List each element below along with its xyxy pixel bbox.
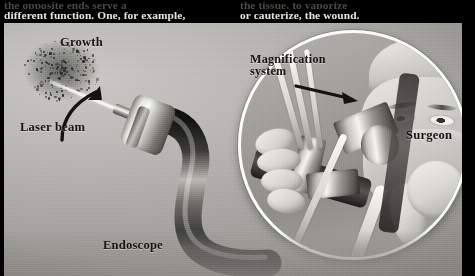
text-line-right: or cauterize, the wound. (240, 9, 360, 21)
clipped-text-line-right: the tissue, to vaporize (240, 0, 360, 9)
control-knob (306, 168, 360, 199)
finger-3 (261, 169, 303, 193)
right-hand-palm (399, 153, 462, 226)
eyebrow-right (427, 103, 457, 111)
optics-lens-housing (356, 120, 405, 170)
text-line-left: different function. One, for example, (4, 9, 185, 21)
label-surgeon: Surgeon (406, 128, 452, 143)
surgical-cap (369, 39, 462, 91)
label-endoscope: Endoscope (103, 238, 163, 253)
finger-1 (252, 125, 297, 160)
left-gutter (0, 23, 4, 276)
right-gutter (462, 0, 475, 276)
eye-right (429, 114, 456, 127)
body-text-region: the opposite ends serve a different func… (0, 0, 475, 23)
illustration-plate (4, 23, 462, 276)
control-body (289, 135, 326, 195)
label-magnification-system: Magnification system (250, 53, 326, 77)
label-growth: Growth (60, 35, 103, 50)
text-column-left: the opposite ends serve a different func… (4, 0, 185, 21)
finger-4 (266, 187, 307, 215)
plate-bottom-shading (4, 230, 462, 276)
text-column-right: the tissue, to vaporize or cauterize, th… (240, 0, 360, 21)
label-laser-beam: Laser beam (20, 120, 85, 135)
eye-left (388, 112, 415, 126)
scope-umbilical (378, 72, 420, 233)
surgeon-face (361, 77, 462, 173)
endoscope-insertion-tube (249, 147, 373, 209)
eyebrow-left (387, 101, 417, 111)
clipped-text-line-left: the opposite ends serve a (4, 0, 185, 9)
finger-2 (256, 147, 302, 175)
label-magnification-line2: system (250, 65, 326, 77)
magnification-optics-barrel (333, 101, 400, 154)
